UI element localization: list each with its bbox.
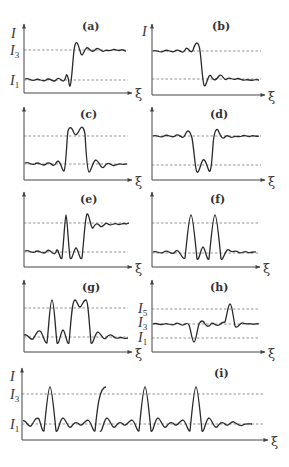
- panel-h: ξ (h) I5 I3 I1: [137, 280, 275, 361]
- panel-b: I ξ (b): [141, 20, 275, 104]
- panel-label: (d): [210, 108, 228, 121]
- panel-label: (i): [214, 367, 229, 380]
- panel-label: (b): [212, 20, 230, 33]
- x-axis-label: ξ: [271, 434, 278, 449]
- panel-d: ξ (d): [152, 107, 275, 189]
- x-axis-label: ξ: [268, 89, 275, 104]
- panel-i: I ξ (i) I3 I1: [9, 367, 278, 449]
- level-label-i3: I3: [9, 43, 20, 60]
- intensity-curve: [153, 304, 259, 342]
- x-axis-label: ξ: [135, 174, 142, 189]
- y-axis-label: I: [9, 369, 16, 384]
- x-axis-label: ξ: [268, 346, 275, 361]
- intensity-curve: [153, 215, 256, 259]
- panel-label: (e): [80, 193, 97, 206]
- level-label-i1: I1: [9, 73, 19, 90]
- intensity-curve: [25, 127, 127, 172]
- panel-label: (h): [210, 281, 228, 294]
- diffraction-intensity-figure: I ξ (a) I3 I1 I ξ (b) ξ (c) ξ (d): [0, 0, 289, 467]
- x-axis-label: ξ: [135, 346, 142, 361]
- y-axis-label: I: [141, 24, 148, 39]
- panel-e: ξ (e): [24, 192, 142, 276]
- panel-a: I ξ (a) I3 I1: [9, 20, 142, 101]
- level-label-i1: I1: [9, 417, 19, 434]
- intensity-curve: [153, 43, 259, 86]
- level-label-i1: I1: [137, 330, 147, 347]
- panel-f: ξ (f): [152, 192, 270, 276]
- panel-c: ξ (c): [24, 107, 142, 189]
- intensity-curve: [25, 214, 129, 259]
- intensity-curve: [25, 43, 126, 87]
- x-axis-label: ξ: [135, 261, 142, 276]
- level-label-i3: I3: [9, 387, 20, 404]
- x-axis-label: ξ: [263, 261, 270, 276]
- panel-label: (g): [82, 281, 100, 294]
- x-axis-label: ξ: [135, 86, 142, 101]
- panel-label: (c): [80, 108, 97, 121]
- x-axis-label: ξ: [268, 174, 275, 189]
- panel-g: ξ (g): [24, 280, 142, 361]
- panel-label: (a): [82, 20, 100, 33]
- panel-label: (f): [210, 193, 225, 206]
- y-axis-label: I: [10, 26, 17, 41]
